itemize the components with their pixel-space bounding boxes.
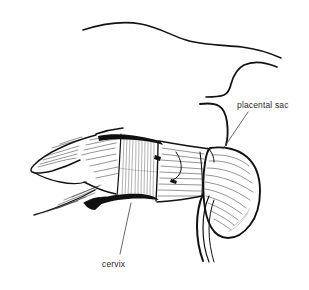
figure-drawing-canvas bbox=[0, 0, 309, 290]
label-placental-sac: placental sac bbox=[237, 100, 289, 110]
anatomical-figure: placental sac cervix bbox=[0, 0, 309, 290]
label-cervix: cervix bbox=[102, 259, 125, 269]
